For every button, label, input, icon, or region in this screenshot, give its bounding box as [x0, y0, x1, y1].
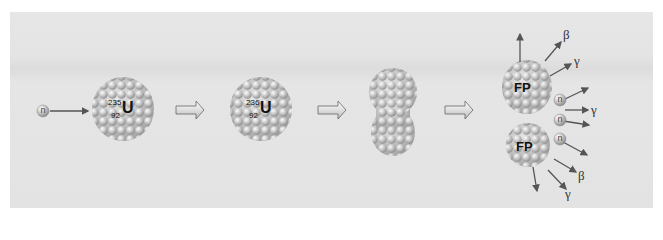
process-arrow-2	[318, 101, 346, 119]
u236-mass-number: 236	[246, 98, 259, 107]
process-arrow-1	[176, 101, 204, 119]
beta-label-upper: β	[563, 27, 570, 43]
incoming-neutron-label: n	[36, 105, 50, 115]
emitted-neutron-label-1: n	[553, 94, 567, 104]
emitted-neutron-label-3: n	[553, 133, 567, 143]
u236-atomic-number: 92	[249, 111, 258, 120]
fission-product-lower-label: FP	[516, 139, 533, 154]
u236-symbol: U	[260, 99, 272, 117]
emitted-neutron-label-2: n	[553, 114, 567, 124]
gamma-label-lower: γ	[565, 186, 571, 202]
process-arrow-3	[445, 101, 473, 119]
deformed-nucleus	[369, 68, 417, 156]
u235-symbol: U	[122, 99, 134, 117]
u235-mass-number: 235	[108, 98, 121, 107]
u235-atomic-number: 92	[111, 111, 120, 120]
gamma-label-upper: γ	[574, 53, 580, 69]
fission-product-upper-label: FP	[514, 80, 531, 95]
gamma-label-middle: γ	[591, 102, 597, 118]
beta-label-lower: β	[578, 168, 585, 184]
